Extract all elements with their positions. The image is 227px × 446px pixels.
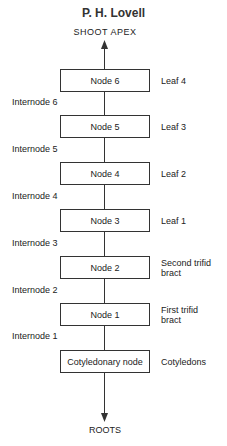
second-trifid-line1: Second trifid [161,258,211,268]
node-2-label: Node 2 [90,263,119,273]
node-5-box: Node 5 [60,115,150,138]
node-1-label: Node 1 [90,310,119,320]
first-trifid-line1: First trifid [161,305,198,315]
node-3-label: Node 3 [90,216,119,226]
internode-2-label: Internode 2 [12,285,58,295]
roots-label: ROOTS [0,425,210,435]
node-5-label: Node 5 [90,122,119,132]
arrow-down-icon [100,413,109,423]
internode-4-label: Internode 4 [12,191,58,201]
node-4-box: Node 4 [60,162,150,185]
second-trifid-bract-label: Second trifid bract [161,258,211,278]
cotyledonary-node-label: Cotyledonary node [67,357,143,367]
node-6-label: Node 6 [90,76,119,86]
node-3-box: Node 3 [60,209,150,232]
node-4-label: Node 4 [90,169,119,179]
internode-5-label: Internode 5 [12,144,58,154]
leaf-3-label: Leaf 3 [161,122,186,132]
internode-6-label: Internode 6 [12,97,58,107]
node-6-box: Node 6 [60,69,150,92]
leaf-2-label: Leaf 2 [161,169,186,179]
leaf-4-label: Leaf 4 [161,76,186,86]
internode-1-label: Internode 1 [12,331,58,341]
cotyledons-label: Cotyledons [161,357,206,367]
node-2-box: Node 2 [60,256,150,279]
first-trifid-line2: bract [161,315,198,325]
cotyledonary-node-box: Cotyledonary node [60,350,150,373]
internode-3-label: Internode 3 [12,238,58,248]
first-trifid-bract-label: First trifid bract [161,305,198,325]
arrow-up-icon [100,40,109,50]
shoot-apex-label: SHOOT APEX [0,27,210,37]
author-heading: P. H. Lovell [0,6,227,20]
second-trifid-line2: bract [161,268,211,278]
node-1-box: Node 1 [60,303,150,326]
leaf-1-label: Leaf 1 [161,216,186,226]
